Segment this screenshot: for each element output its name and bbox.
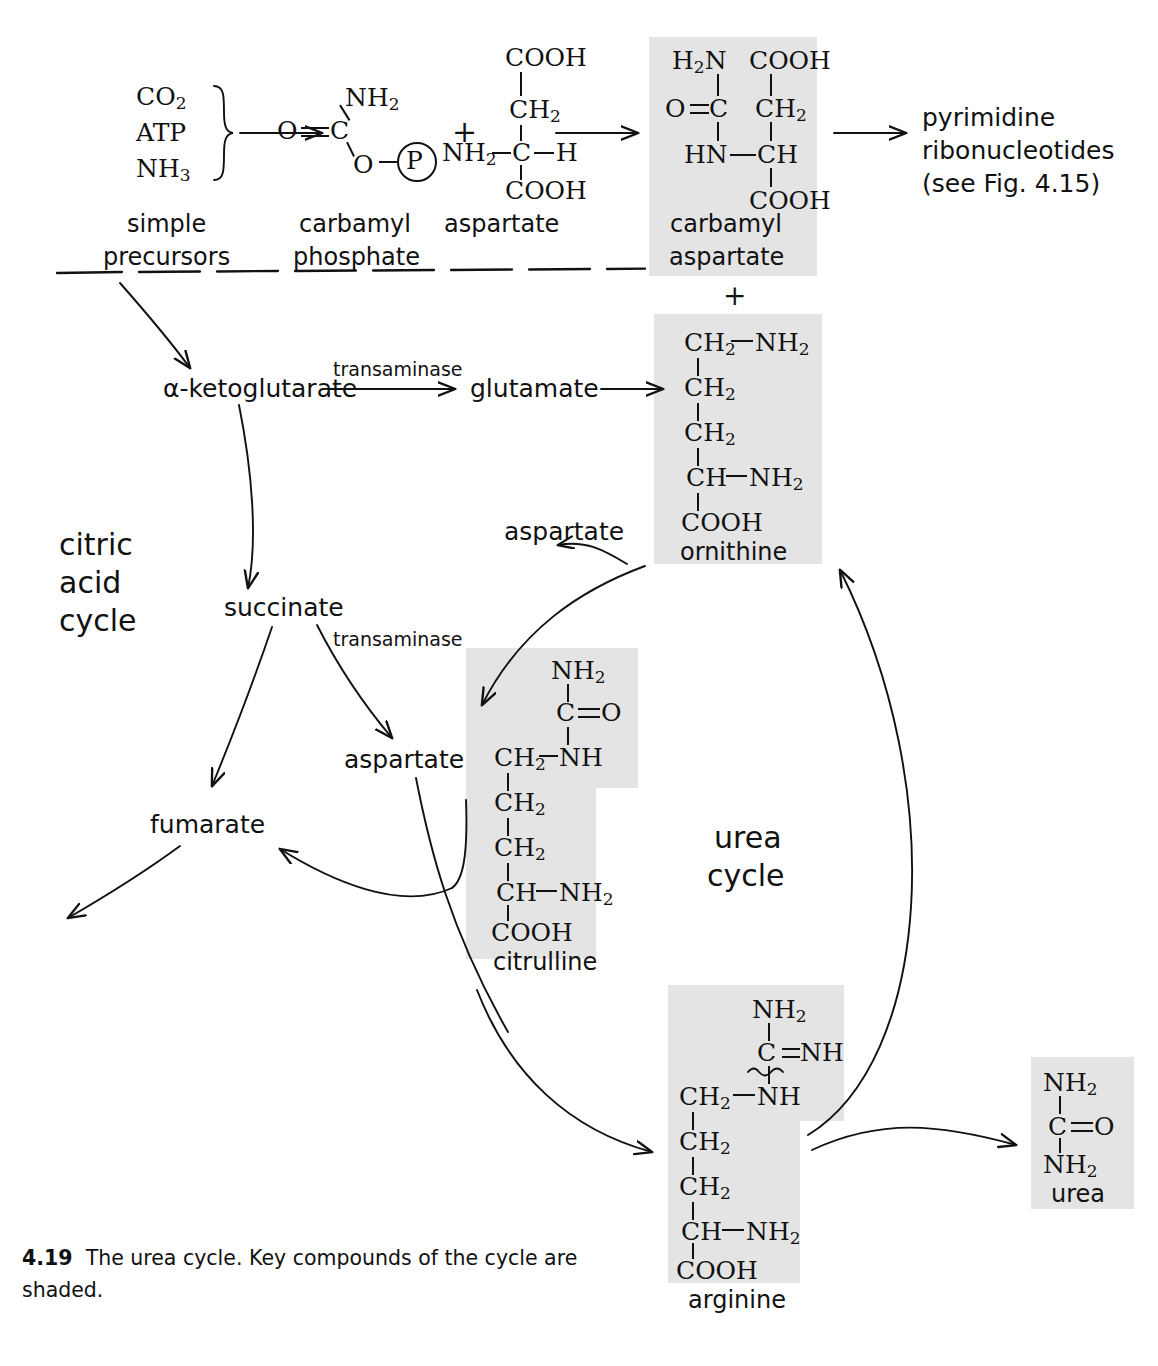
bond-aspartate-ch2-c — [520, 125, 522, 141]
node-aspartate-upper: aspartate — [504, 519, 624, 544]
arginine-c: C — [757, 1040, 776, 1065]
bond-ca-o-c-lower — [690, 112, 709, 114]
label-simple: simple — [127, 212, 206, 236]
label-ribonucleotides: ribonucleotides — [922, 138, 1114, 163]
precursor-brace — [214, 86, 233, 180]
arginine-nh2-bottom: NH2 — [746, 1219, 801, 1247]
bond-aspartate-cooh-ch2 — [520, 72, 522, 96]
plus-mid: + — [723, 282, 746, 310]
bond-ca-cooh-ch2 — [770, 74, 772, 96]
bond-orn-3-4 — [697, 448, 699, 466]
urea-c: C — [1048, 1114, 1067, 1139]
urea-cycle-line2: cycle — [707, 858, 785, 893]
bond-cit-4-cooh — [507, 905, 509, 921]
carbamyl-aspartate-o: O — [665, 96, 686, 121]
arrow-fumarate-out — [68, 846, 180, 918]
urea-nh2-bottom: NH2 — [1043, 1152, 1098, 1180]
ornithine-nh2-top: NH2 — [755, 330, 810, 358]
label-carbamyl: carbamyl — [299, 212, 411, 236]
carbamyl-phosphate-nh2: NH2 — [345, 85, 400, 113]
bond-o-c-double-lower — [301, 135, 329, 137]
bond-arg-c-nh-lower — [782, 1056, 800, 1058]
arrow-cycle-to-fumarate — [280, 849, 452, 896]
label-arginine: arginine — [688, 1288, 786, 1312]
citrulline-ch2-3: CH2 — [494, 835, 546, 863]
arginine-ch2-2: CH2 — [679, 1129, 731, 1157]
bond-arg-2-3 — [692, 1157, 694, 1175]
bond-arg-ch2-nh — [733, 1094, 755, 1096]
precursor-atp: ATP — [136, 120, 186, 145]
bond-cit-ch2-nh — [539, 755, 558, 757]
citrulline-nh2-bottom: NH2 — [559, 880, 614, 908]
node-fumarate: fumarate — [150, 812, 265, 837]
bond-ca-ch-cooh — [770, 168, 772, 187]
bond-cit-3-4 — [507, 863, 509, 881]
bond-aspartate-c-cooh — [520, 165, 522, 180]
bond-urea-nh2-c — [1059, 1096, 1061, 1114]
curve-cycle-to-fumarate-tail — [452, 800, 466, 888]
bond-orn-2-3 — [697, 403, 699, 421]
citrulline-ch2-1: CH2 — [494, 745, 546, 773]
citrulline-c: C — [556, 700, 575, 725]
bond-ca-ch2-ch — [770, 122, 772, 141]
carbamyl-phosphate-o-left: O — [277, 118, 298, 143]
arginine-nh2-top: NH2 — [752, 997, 807, 1025]
ornithine-ch2-3: CH2 — [684, 420, 736, 448]
ornithine-ch2-2: CH2 — [684, 375, 736, 403]
bond-urea-c-o-upper — [1071, 1122, 1093, 1124]
bond-orn-ch2-nh2 — [731, 340, 753, 342]
label-aspartate-structure: aspartate — [444, 212, 559, 236]
arrow-aspartate-release — [558, 544, 627, 564]
precursor-co2: CO2 — [136, 84, 186, 112]
ornithine-ch2-1: CH2 — [684, 330, 736, 358]
citrulline-ch: CH — [496, 880, 537, 905]
bond-cit-ch-nh2 — [536, 890, 557, 892]
bond-ca-h2n-c — [717, 74, 719, 96]
carbamyl-aspartate-ch2: CH2 — [755, 96, 807, 124]
bond-orn-4-cooh — [697, 493, 699, 511]
arginine-nh-double: NH — [800, 1040, 844, 1065]
caption-line1: The urea cycle. Key compounds of the cyc… — [86, 1246, 578, 1270]
bond-aspartate-c-h — [534, 152, 554, 154]
precursor-nh3: NH3 — [136, 156, 191, 184]
urea-cycle-line1: urea — [714, 820, 782, 855]
label-urea: urea — [1051, 1182, 1105, 1206]
bond-orn-1-2 — [697, 358, 699, 376]
aspartate-nh2: NH2 — [442, 140, 497, 168]
bond-ca-c-hn — [717, 122, 719, 141]
citrulline-ch2-2: CH2 — [494, 790, 546, 818]
node-succinate: succinate — [224, 595, 344, 620]
label-citrulline: citrulline — [493, 950, 597, 974]
carbamyl-phosphate-o-lower: O — [353, 152, 374, 177]
bond-arg-nh2-c — [768, 1023, 770, 1041]
bond-arg-4-cooh — [692, 1243, 694, 1259]
arginine-ch2-1: CH2 — [679, 1084, 731, 1112]
bond-cit-c-o-upper — [578, 708, 600, 710]
citrulline-o: O — [601, 700, 622, 725]
citrulline-nh2-top: NH2 — [551, 658, 606, 686]
label-phosphate: phosphate — [293, 245, 420, 269]
label-carbamyl-aspartate-line1: carbamyl — [670, 212, 782, 236]
bond-cit-nh2-c — [567, 684, 569, 702]
bond-arg-ch-nh2 — [722, 1229, 744, 1231]
carbamyl-aspartate-hn: HN — [684, 142, 728, 167]
urea-nh2-top: NH2 — [1043, 1070, 1098, 1098]
phosphate-letter: P — [406, 148, 423, 173]
carbamyl-phosphate-c: C — [330, 118, 349, 143]
ornithine-ch: CH — [686, 465, 727, 490]
label-pyrimidine: pyrimidine — [922, 105, 1055, 130]
arrow-precursors-to-ketoglutarate — [120, 283, 190, 368]
bond-arg-c-nh-upper — [782, 1048, 800, 1050]
enzyme-transaminase-mid: transaminase — [333, 630, 463, 649]
bond-arg-1-2 — [692, 1112, 694, 1130]
bond-aspartate-nh2-c — [492, 152, 511, 154]
carbamyl-aspartate-h2n: H2N — [672, 48, 727, 76]
figure-number: 4.19 — [22, 1246, 73, 1270]
node-glutamate: glutamate — [470, 376, 599, 401]
bond-urea-c-o-lower — [1071, 1130, 1093, 1132]
urea-o: O — [1094, 1114, 1115, 1139]
enzyme-transaminase-top: transaminase — [333, 360, 463, 379]
citric-acid-cycle-line2: acid — [59, 565, 121, 600]
arrow-citrulline-to-arginine — [477, 990, 652, 1152]
arginine-ch: CH — [681, 1219, 722, 1244]
